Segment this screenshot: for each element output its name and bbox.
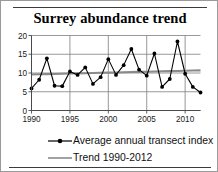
svg-text:10: 10 [18, 69, 28, 78]
legend-item-average-annual-transect-index: Average annual transect index [1, 132, 218, 149]
y-axis-tick-labels: 05101520 [18, 32, 28, 116]
svg-text:5: 5 [22, 88, 27, 97]
title-divider [13, 7, 207, 8]
svg-text:2005: 2005 [138, 115, 157, 124]
transect-index-series [32, 42, 201, 93]
plain-line-icon [47, 152, 73, 164]
legend-divider [9, 167, 211, 168]
svg-text:15: 15 [18, 50, 28, 59]
svg-text:2000: 2000 [99, 115, 118, 124]
legend-item-trend: Trend 1990-2012 [1, 149, 218, 166]
legend-label-average-annual-transect-index: Average annual transect index [73, 135, 213, 147]
svg-text:2010: 2010 [176, 115, 195, 124]
chart-figure: Surrey abundance trend 05101520 19901995… [0, 0, 218, 172]
chart-plot-area: 05101520 19901995200020052010 [1, 27, 218, 135]
chart-legend: Average annual transect index Trend 1990… [1, 132, 218, 168]
svg-text:1990: 1990 [22, 115, 41, 124]
svg-text:1995: 1995 [61, 115, 80, 124]
line-with-marker-icon [47, 135, 73, 147]
chart-title: Surrey abundance trend [11, 10, 209, 26]
legend-label-trend: Trend 1990-2012 [73, 152, 152, 164]
svg-text:20: 20 [18, 32, 28, 41]
x-axis-tick-labels: 19901995200020052010 [22, 115, 194, 124]
